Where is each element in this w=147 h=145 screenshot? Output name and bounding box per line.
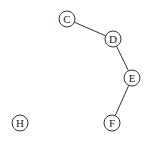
node-label: D <box>109 33 117 45</box>
edge-c-d <box>74 22 105 36</box>
node-d: D <box>105 31 121 47</box>
node-c: C <box>59 11 75 27</box>
node-label: F <box>109 117 115 129</box>
edge-e-f <box>115 85 129 115</box>
node-h: H <box>12 115 28 131</box>
node-label: C <box>63 13 70 25</box>
node-f: F <box>104 115 120 131</box>
node-label: E <box>129 72 136 84</box>
node-e: E <box>124 70 140 86</box>
edge-d-e <box>117 46 129 71</box>
node-label: H <box>16 117 24 129</box>
nodes-layer: CDEFH <box>12 11 140 131</box>
graph-canvas: CDEFH <box>0 0 147 145</box>
